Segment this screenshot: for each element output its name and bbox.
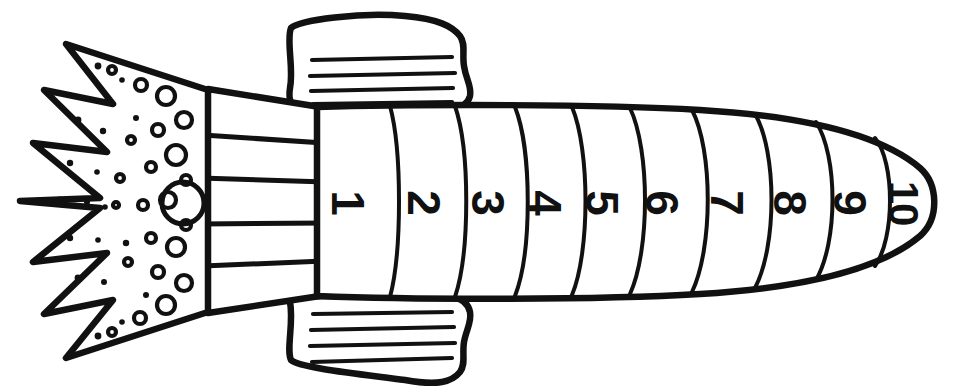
top-fin	[289, 15, 470, 110]
segment-number-4: 4	[519, 190, 571, 216]
segment-number-5: 5	[576, 190, 628, 216]
segment-number-8: 8	[764, 190, 816, 216]
segment-number-1: 1	[322, 190, 374, 216]
exhaust-flame	[20, 44, 208, 358]
bottom-fin	[289, 296, 470, 383]
segment-number-10: 10	[880, 181, 927, 226]
segment-number-6: 6	[636, 190, 688, 216]
rocket-illustration: 1 2 3 4 5 6 7 8 9 10	[0, 0, 977, 390]
coloring-page-canvas: 1 2 3 4 5 6 7 8 9 10	[0, 0, 977, 390]
segment-number-7: 7	[701, 190, 753, 216]
rocket-body: 1 2 3 4 5 6 7 8 9 10	[317, 105, 934, 299]
segment-number-3: 3	[462, 190, 514, 216]
engine-nozzle	[200, 89, 326, 313]
segment-number-2: 2	[398, 190, 450, 216]
segment-number-9: 9	[824, 190, 876, 216]
